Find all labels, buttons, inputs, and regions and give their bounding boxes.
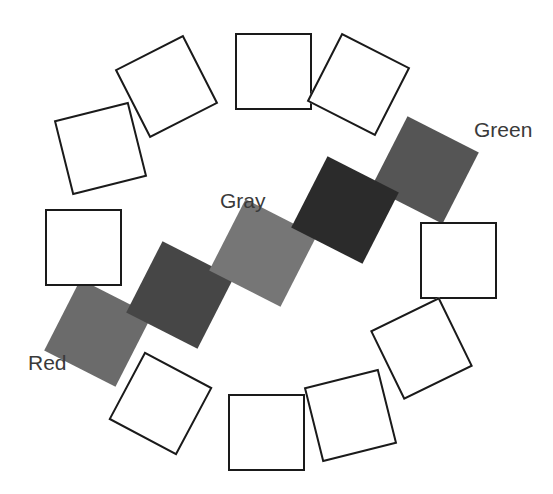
square-bottom-right-2: [304, 369, 397, 462]
label-red: Red: [28, 352, 67, 373]
square-bottom-right: [370, 297, 473, 400]
label-gray: Gray: [220, 190, 266, 211]
square-left: [45, 209, 122, 286]
square-upper-left: [54, 102, 147, 195]
color-wheel-figure: GreenGrayRed: [0, 0, 553, 494]
square-right: [420, 222, 497, 299]
label-green: Green: [474, 119, 532, 140]
square-top-right: [307, 33, 411, 137]
square-top: [235, 33, 312, 110]
square-bottom: [228, 394, 305, 471]
